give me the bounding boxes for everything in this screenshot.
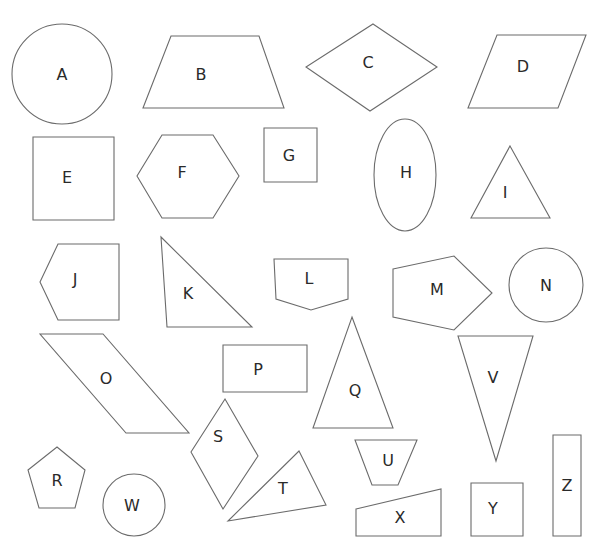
triangle-outline (471, 146, 550, 218)
rectangle-outline (223, 345, 307, 392)
shape-label: Z (562, 476, 573, 495)
shape-a-circle: A (12, 24, 112, 124)
shape-label: T (277, 479, 288, 498)
shape-g-square: G (264, 128, 317, 182)
shape-label: H (400, 163, 412, 182)
shape-label: R (51, 471, 62, 490)
shape-c-rhombus: C (306, 24, 437, 111)
shapes-canvas: ABCDEFGHIJKLMNOPQRSTUVWXYZ (0, 0, 607, 558)
shape-m-pentagon: M (393, 256, 492, 330)
shape-label: I (503, 183, 508, 202)
shape-b-trapezoid: B (143, 36, 284, 108)
shape-w-circle: W (103, 474, 165, 536)
shape-q-triangle: Q (313, 317, 393, 428)
shape-label: W (124, 496, 140, 515)
rhombus-outline (191, 399, 258, 509)
shape-k-right-triangle: K (161, 237, 252, 327)
shape-n-circle: N (509, 248, 583, 322)
shape-label: M (430, 280, 444, 299)
shape-o-parallelogram: O (40, 334, 189, 433)
shape-l-pentagon: L (274, 259, 348, 310)
inverted-triangle-outline (458, 336, 533, 461)
shape-label: P (253, 360, 263, 379)
shape-label: E (62, 168, 72, 187)
shape-e-square: E (33, 137, 114, 220)
shape-label: V (488, 368, 499, 387)
hexagon-outline (137, 135, 239, 218)
pentagon-outline (40, 244, 119, 320)
trapezoid-outline (143, 36, 284, 108)
right-triangle-outline (161, 237, 252, 327)
shape-label: D (517, 57, 529, 76)
shape-u-trapezoid: U (355, 440, 417, 485)
shape-label: O (100, 369, 113, 388)
shape-y-square: Y (471, 483, 523, 536)
shape-d-parallelogram: D (468, 35, 586, 108)
square-outline (33, 137, 114, 220)
shape-p-rectangle: P (223, 345, 307, 392)
shape-j-pentagon: J (40, 244, 119, 320)
triangle-outline (313, 317, 393, 428)
shape-label: G (283, 146, 295, 165)
shape-label: A (57, 65, 68, 84)
shape-label: Y (487, 499, 498, 518)
shape-h-ellipse: H (374, 119, 436, 231)
shape-label: K (183, 284, 194, 303)
shape-label: B (196, 65, 207, 84)
shape-f-hexagon: F (137, 135, 239, 218)
shape-x-right-trapezoid: X (356, 489, 441, 536)
shape-label: N (540, 276, 552, 295)
shape-label: C (362, 53, 373, 72)
shape-label: X (395, 508, 406, 527)
shape-r-pentagon: R (28, 447, 85, 508)
shape-s-rhombus: S (191, 399, 258, 509)
shape-label: L (305, 269, 314, 288)
shape-label: U (382, 451, 394, 470)
shape-label: J (72, 270, 78, 289)
shape-i-triangle: I (471, 146, 550, 218)
parallelogram-outline (40, 334, 189, 433)
shape-v-inverted-triangle: V (458, 336, 533, 461)
shape-label: S (213, 427, 223, 446)
shape-label: Q (349, 381, 362, 400)
shape-z-rectangle: Z (553, 435, 581, 536)
shape-label: F (177, 163, 186, 182)
